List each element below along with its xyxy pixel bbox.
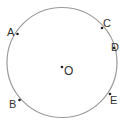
label-e: E	[110, 94, 117, 106]
point-b	[18, 99, 21, 102]
circle-diagram: O A B C D E	[0, 0, 125, 125]
circle	[7, 8, 117, 118]
label-d: D	[111, 41, 119, 53]
label-c: C	[103, 17, 111, 29]
point-a	[16, 33, 19, 36]
label-o: O	[64, 64, 73, 78]
label-a: A	[7, 26, 15, 38]
label-b: B	[9, 98, 16, 110]
center-point-o	[61, 66, 64, 69]
